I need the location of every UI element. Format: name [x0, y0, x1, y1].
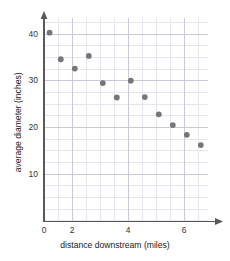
data-point — [114, 95, 120, 101]
data-point — [156, 111, 162, 117]
y-axis-tick-label: 20 — [22, 123, 38, 132]
x-axis-arrowhead — [215, 218, 223, 225]
data-point — [128, 78, 134, 84]
y-axis-tick-label: 10 — [22, 170, 38, 179]
data-point — [72, 66, 78, 72]
y-axis-arrowhead — [41, 11, 48, 19]
y-axis-title: average diameter (inches) — [14, 42, 23, 202]
x-axis-tick-label: 4 — [121, 226, 135, 235]
y-axis-tick-label: 40 — [22, 30, 38, 39]
x-axis-tick-label: 0 — [37, 226, 51, 235]
y-axis-tick-label: 30 — [22, 76, 38, 85]
data-point — [142, 94, 148, 100]
data-points — [47, 30, 204, 148]
x-axis-title: distance downstream (miles) — [0, 241, 230, 250]
scatter-plot-figure: 10203040 0246 distance downstream (miles… — [0, 0, 230, 261]
axis-lines — [41, 11, 223, 225]
data-point — [47, 30, 53, 36]
data-point — [184, 132, 190, 138]
data-point — [100, 80, 106, 86]
x-axis-tick-label: 2 — [65, 226, 79, 235]
major-gridlines — [44, 18, 208, 222]
minor-gridlines — [44, 18, 208, 222]
data-point — [58, 56, 64, 62]
data-point — [170, 122, 176, 128]
x-axis-tick-label: 6 — [177, 226, 191, 235]
data-point — [198, 142, 204, 148]
data-point — [86, 53, 92, 59]
